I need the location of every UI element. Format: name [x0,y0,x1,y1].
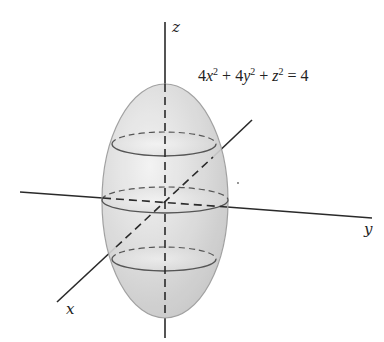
eq-op: + [255,67,272,84]
upper-trace [112,132,216,156]
ellipsoid-equation: 4x2 + 4y2 + z2 = 4 [198,68,309,84]
diagram-canvas [0,0,384,342]
y-axis-left [20,192,103,198]
eq-coef: 4 [198,67,206,84]
eq-op: + 4 [218,67,243,84]
x-axis-lower [57,247,116,302]
x-axis-label: x [66,302,74,317]
ellipsoid-diagram: z y x 4x2 + 4y2 + z2 = 4 [0,0,384,342]
y-axis-right [227,207,372,218]
z-axis-label: z [172,20,180,35]
stray-dot [237,182,239,184]
y-axis-label: y [364,222,372,237]
lower-trace [112,247,216,271]
eq-rhs: = 4 [284,67,309,84]
